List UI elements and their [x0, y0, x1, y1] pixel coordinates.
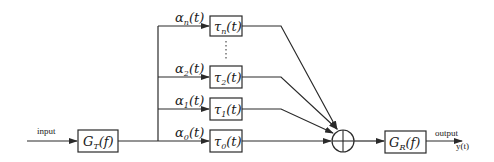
gain-label-2: α2(t) — [175, 61, 204, 78]
transmit-filter-block: GT(f) — [78, 130, 118, 152]
gr-symbol: G — [389, 135, 399, 150]
output-signal: output y(t) — [426, 128, 469, 151]
delay-label-n: τn(t) — [214, 19, 242, 36]
gain-label-1: α1(t) — [175, 93, 204, 110]
gt-arg: (f) — [99, 134, 114, 149]
multipath-channel-diagram: input GT(f) αn(t) τn(t) α2(t) τ2(t) α1(t… — [0, 0, 494, 162]
branch-2: α2(t) τ2(t) — [158, 61, 337, 129]
summer-node — [332, 130, 354, 152]
svg-text:GT(f): GT(f) — [83, 134, 114, 151]
gain-label-n: αn(t) — [175, 10, 204, 27]
branch-0: α0(t) τ0(t) — [158, 125, 331, 152]
gt-symbol: G — [83, 134, 93, 149]
gr-arg: (f) — [405, 135, 420, 150]
svg-text:GR(f): GR(f) — [389, 135, 420, 152]
gain-label-0: α0(t) — [175, 125, 204, 142]
gr-subscript: R — [398, 143, 405, 152]
receive-filter-block: GR(f) — [385, 131, 426, 153]
input-label: input — [37, 126, 56, 136]
delay-label-1: τ1(t) — [214, 102, 242, 119]
output-signal-label: y(t) — [456, 141, 469, 151]
branch-1: α1(t) τ1(t) — [158, 93, 333, 133]
output-label: output — [435, 128, 459, 138]
delay-label-2: τ2(t) — [214, 70, 242, 87]
input-signal: input — [27, 126, 77, 141]
delay-label-0: τ0(t) — [214, 134, 242, 151]
